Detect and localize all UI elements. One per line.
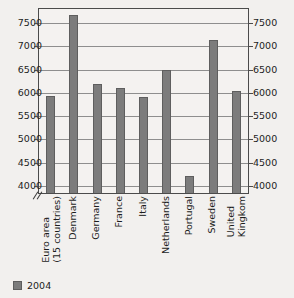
y-axis-label-left-7000: 7000	[18, 41, 42, 51]
bar	[185, 176, 194, 193]
y-axis-label-right-5500: 5500	[253, 111, 277, 121]
y-tick-mark-right-4500	[249, 163, 253, 164]
bar	[232, 91, 241, 193]
x-axis-label: Italy	[138, 196, 149, 217]
y-tick-mark-left-5500	[34, 116, 38, 117]
y-tick-mark-left-5000	[34, 139, 38, 140]
x-axis-label: Portugal	[184, 196, 195, 235]
y-axis-label-left-6000: 6000	[18, 88, 42, 98]
x-axis-label: Euro area (15 countries)	[41, 196, 62, 263]
y-tick-mark-right-7000	[249, 46, 253, 47]
y-tick-mark-right-6500	[249, 70, 253, 71]
y-axis-label-right-5000: 5000	[253, 134, 277, 144]
y-axis-label-right-4500: 4500	[253, 158, 277, 168]
x-axis-label: Netherlands	[161, 196, 172, 254]
y-tick-mark-left-7500	[34, 23, 38, 24]
bar	[209, 40, 218, 193]
y-axis-label-left-5500: 5500	[18, 111, 42, 121]
bar	[46, 96, 55, 193]
x-axis-label: United Kingkom	[226, 196, 247, 237]
y-tick-mark-right-5000	[249, 139, 253, 140]
y-axis-label-left-5000: 5000	[18, 134, 42, 144]
y-axis-label-right-7500: 7500	[253, 18, 277, 28]
y-axis-label-left-4500: 4500	[18, 158, 42, 168]
bar	[116, 88, 125, 193]
x-axis-category-labels: Euro area (15 countries)DenmarkGermanyFr…	[38, 196, 249, 278]
y-axis-label-right-7000: 7000	[253, 41, 277, 51]
y-tick-mark-left-4500	[34, 163, 38, 164]
x-axis-label: France	[114, 196, 125, 228]
bar	[139, 97, 148, 193]
x-axis-label: Denmark	[68, 196, 79, 240]
y-tick-mark-left-7000	[34, 46, 38, 47]
y-tick-mark-left-6500	[34, 70, 38, 71]
y-tick-mark-right-7500	[249, 23, 253, 24]
chart-page: 4000400045004500500050005500550060006000…	[0, 0, 294, 298]
y-tick-mark-right-5500	[249, 116, 253, 117]
bar	[93, 84, 102, 193]
chart-legend: 2004	[13, 281, 51, 291]
y-tick-mark-right-4000	[249, 186, 253, 187]
plot-area	[38, 8, 249, 194]
y-axis-label-right-6500: 6500	[253, 65, 277, 75]
bar	[69, 15, 78, 193]
y-axis-label-right-6000: 6000	[253, 88, 277, 98]
bar	[162, 70, 171, 193]
legend-label-2004: 2004	[27, 281, 51, 291]
legend-swatch-2004	[13, 281, 22, 290]
bar-series-2004	[39, 9, 248, 193]
y-axis-label-right-4000: 4000	[253, 181, 277, 191]
x-axis-label: Germany	[91, 196, 102, 240]
y-tick-mark-right-6000	[249, 93, 253, 94]
y-axis-label-left-6500: 6500	[18, 65, 42, 75]
y-axis-label-left-7500: 7500	[18, 18, 42, 28]
y-tick-mark-left-6000	[34, 93, 38, 94]
x-axis-label: Sweden	[207, 196, 218, 234]
